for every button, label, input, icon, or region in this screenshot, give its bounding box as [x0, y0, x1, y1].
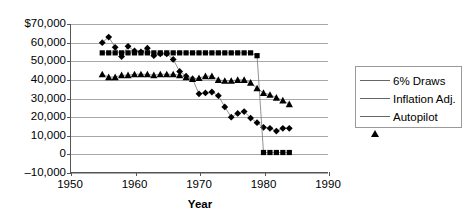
y-axis-tick-label: 40,000 — [31, 74, 66, 86]
y-axis-tick — [67, 43, 71, 44]
gridline — [71, 99, 328, 100]
gridline — [71, 117, 328, 118]
y-axis-tick-label: 30,000 — [31, 93, 66, 105]
y-axis-tick-label: 20,000 — [31, 111, 66, 123]
gridline — [71, 80, 328, 81]
x-axis-tick — [265, 172, 266, 176]
y-axis-tick-label: –10,000 — [24, 167, 66, 179]
chart-container: $70,00060,00050,00040,00030,00020,00010,… — [0, 0, 465, 221]
gridline — [71, 43, 328, 44]
gridline — [71, 136, 328, 137]
y-axis-tick-labels: $70,00060,00050,00040,00030,00020,00010,… — [0, 0, 66, 221]
triangle-marker-icon — [360, 110, 390, 124]
y-axis-tick-label: 0 — [60, 148, 66, 160]
gridline — [71, 24, 328, 25]
chart-legend: 6% Draws Inflation Adj. Autopilot — [355, 66, 462, 128]
square-marker-icon — [360, 92, 390, 106]
legend-label: Inflation Adj. — [390, 93, 456, 105]
diamond-marker-icon — [360, 74, 390, 88]
legend-label: 6% Draws — [390, 75, 445, 87]
legend-item-autopilot: Autopilot — [360, 108, 457, 126]
gridline — [71, 61, 328, 62]
x-axis-tick-label: 1960 — [122, 178, 148, 190]
y-axis-tick-label: 60,000 — [31, 37, 66, 49]
y-axis-tick — [67, 24, 71, 25]
y-axis-tick — [67, 99, 71, 100]
x-axis-tick — [71, 172, 72, 176]
plot-area — [70, 24, 328, 173]
legend-item-6-draws: 6% Draws — [360, 72, 457, 90]
y-axis-tick — [67, 117, 71, 118]
y-axis-tick — [67, 136, 71, 137]
y-axis-tick-label: 10,000 — [31, 130, 66, 142]
x-axis-tick-label: 1950 — [57, 178, 83, 190]
y-axis-tick-label: $70,000 — [24, 18, 66, 30]
gridline — [71, 154, 328, 155]
x-axis-title: Year — [188, 198, 212, 210]
x-axis-tick — [136, 172, 137, 176]
x-axis-tick — [329, 172, 330, 176]
legend-item-inflation-adj: Inflation Adj. — [360, 90, 457, 108]
x-axis-tick-label: 1990 — [315, 178, 341, 190]
y-axis-tick — [67, 80, 71, 81]
y-axis-tick — [67, 61, 71, 62]
x-axis-tick-label: 1980 — [251, 178, 277, 190]
x-axis-tick — [200, 172, 201, 176]
x-axis-tick-label: 1970 — [186, 178, 212, 190]
legend-label: Autopilot — [390, 111, 438, 123]
y-axis-tick-label: 50,000 — [31, 55, 66, 67]
y-axis-tick — [67, 154, 71, 155]
